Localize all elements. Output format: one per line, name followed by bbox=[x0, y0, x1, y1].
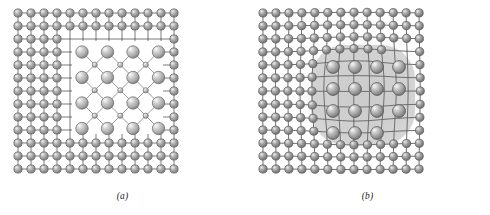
panel-a-caption: (a) bbox=[0, 182, 245, 215]
figure-container: (a) bbox=[0, 0, 490, 215]
panel-b-caption: (b) bbox=[245, 182, 490, 215]
panel-a: (a) bbox=[0, 0, 245, 215]
panel-b: (b) bbox=[245, 0, 490, 215]
incoherent-particle-lattice-svg bbox=[0, 0, 245, 182]
panel-a-diagram bbox=[0, 0, 245, 182]
coherent-particle-lattice-svg bbox=[245, 0, 490, 182]
panel-b-diagram bbox=[245, 0, 490, 182]
